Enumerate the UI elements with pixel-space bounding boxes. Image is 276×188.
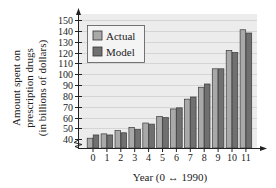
legend-label-actual: Actual: [106, 30, 135, 42]
legend-swatch-model: [93, 47, 102, 56]
x-tick-label: 10: [227, 152, 237, 163]
bar-actual-2: [115, 131, 121, 148]
x-tick-label: 4: [146, 152, 151, 163]
bar-model-3: [135, 130, 141, 148]
y-tick-label: 130: [58, 37, 73, 48]
x-tick-label: 0: [91, 152, 96, 163]
x-tick-label: 11: [241, 152, 251, 163]
y-axis-title-line-2: prescription drugs: [23, 48, 35, 128]
bar-actual-8: [198, 87, 204, 148]
bar-actual-11: [240, 30, 246, 148]
bar-actual-6: [171, 109, 177, 148]
legend-swatch-actual: [93, 31, 102, 40]
bar-actual-9: [212, 69, 218, 148]
bar-actual-3: [129, 127, 135, 148]
bar-actual-1: [101, 134, 107, 148]
legend-label-model: Model: [106, 46, 135, 58]
legend: Actual Model: [88, 26, 145, 63]
bar-model-5: [163, 118, 169, 148]
x-axis-arrow: [260, 146, 267, 151]
x-tick-label: 9: [216, 152, 221, 163]
bar-actual-7: [185, 99, 191, 148]
y-tick-label: 150: [58, 15, 73, 26]
x-tick-label: 8: [202, 152, 207, 163]
x-tick-label: 2: [118, 152, 123, 163]
bar-actual-0: [87, 138, 93, 148]
y-tick-label: 110: [58, 58, 73, 69]
bar-model-2: [121, 133, 127, 148]
bar-model-7: [191, 97, 197, 148]
y-axis-title-line-1: Amount spent on: [10, 50, 22, 126]
bar-model-6: [177, 108, 183, 148]
x-tick-label: 5: [160, 152, 165, 163]
x-ticks: 01234567891011: [91, 148, 251, 163]
y-tick-label: 70: [63, 102, 73, 113]
y-tick-label: 60: [63, 113, 73, 124]
y-tick-label: 50: [63, 123, 73, 134]
x-tick-label: 6: [174, 152, 179, 163]
bar-model-11: [246, 33, 252, 148]
y-tick-label: 120: [58, 48, 73, 59]
y-axis-title: Amount spent on prescription drugs (in b…: [10, 40, 49, 137]
bar-model-4: [149, 124, 155, 148]
y-axis-arrow: [76, 8, 81, 15]
y-tick-label: 100: [58, 69, 73, 80]
bar-model-0: [93, 135, 99, 148]
bar-chart: 405060708090100110120130140150 012345678…: [0, 0, 276, 188]
bar-actual-5: [157, 117, 163, 148]
y-tick-label: 40: [63, 134, 73, 145]
bar-model-1: [107, 135, 113, 148]
bar-model-9: [218, 69, 224, 148]
bar-model-10: [232, 53, 238, 148]
x-tick-label: 1: [104, 152, 109, 163]
x-tick-label: 7: [188, 152, 193, 163]
x-axis-title: Year (0 ↔ 1990): [133, 171, 208, 184]
bar-actual-4: [143, 123, 149, 148]
y-tick-label: 80: [63, 91, 73, 102]
y-tick-label: 140: [58, 26, 73, 37]
bar-model-8: [204, 84, 210, 148]
bar-actual-10: [226, 50, 232, 148]
y-axis-title-line-3: (in billions of dollars): [36, 40, 49, 137]
x-tick-label: 3: [132, 152, 137, 163]
y-tick-label: 90: [63, 80, 73, 91]
